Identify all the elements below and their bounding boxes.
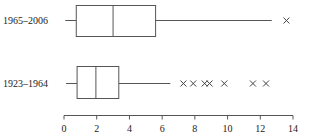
box-row: 1923–1964 [3,67,269,99]
tick-label: 6 [160,123,165,134]
box-row: 1965–2006 [3,6,289,37]
box-plot-rows: 1965–20061923–1964 [3,6,289,99]
tick-label: 2 [94,123,99,134]
outlier-marker [250,81,256,87]
tick-label: 10 [223,123,233,134]
outlier-marker [207,81,213,87]
box-plot-chart: 1965–20061923–1964 02468101214 [0,0,309,139]
tick-label: 12 [255,123,265,134]
x-axis: 02468101214 [62,116,299,134]
tick-label: 14 [288,123,298,134]
iqr-box [77,67,119,99]
outlier-marker [283,18,289,24]
tick-label: 8 [192,123,197,134]
category-label: 1923–1964 [3,78,48,89]
outlier-marker [180,81,186,87]
category-label: 1965–2006 [3,15,48,26]
outlier-marker [221,81,227,87]
iqr-box [76,6,155,37]
outlier-marker [190,81,196,87]
tick-label: 0 [62,123,67,134]
outlier-marker [202,81,208,87]
tick-label: 4 [127,123,132,134]
outlier-marker [263,81,269,87]
